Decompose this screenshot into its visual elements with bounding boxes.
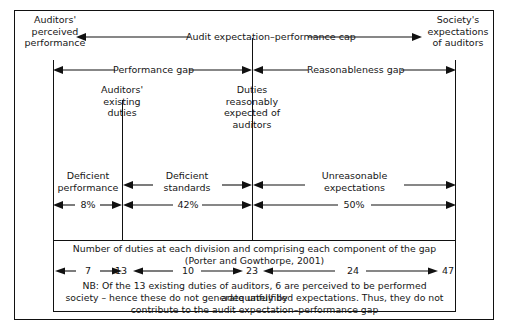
left-endpoint-line1: Auditors' [20, 14, 90, 26]
deficient-standards-line1: Deficient [153, 170, 221, 182]
deficient-standards-label: Deficient standards [153, 170, 221, 193]
audit-expectation-gap-figure: Auditors' perceived performance Society'… [0, 0, 509, 330]
deficient-performance-line1: Deficient [54, 170, 122, 182]
deficient-performance-percent: 8% [73, 199, 103, 210]
right-endpoint-line3: of auditors [420, 37, 496, 49]
right-endpoint-line1: Society's [420, 14, 496, 26]
auditors-existing-duties-line3: duties [87, 107, 157, 119]
unreasonable-expectations-percent: 50% [338, 199, 370, 210]
audit-expectation-cap-label: Audit expectation–performance cap [186, 31, 314, 43]
duties-reasonably-expected-line3: expected of [212, 107, 292, 119]
count-divider-left: 13 [110, 265, 132, 276]
auditors-existing-duties-line1: Auditors' [87, 84, 157, 96]
count-divider-right: 47 [438, 265, 458, 276]
footer-note-line3: contribute to the audit expectation–perf… [56, 304, 453, 316]
count-deficient-performance: 7 [73, 265, 103, 276]
count-deficient-standards: 10 [172, 265, 204, 276]
duties-reasonably-expected-label: Duties reasonably expected of auditors [212, 84, 292, 130]
deficient-performance-label: Deficient performance [54, 170, 122, 193]
duties-reasonably-expected-line4: auditors [212, 119, 292, 131]
reasonableness-gap-label: Reasonableness gap [307, 64, 402, 76]
deficient-standards-percent: 42% [172, 199, 204, 210]
vline-left-boundary [53, 60, 54, 240]
deficient-performance-line2: performance [54, 182, 122, 194]
duties-reasonably-expected-line2: reasonably [212, 96, 292, 108]
footer-note-line2: society – hence these do not generate un… [56, 292, 453, 304]
count-divider-mid: 23 [241, 265, 263, 276]
vline-right-boundary [455, 60, 456, 240]
count-unreasonable-expectations: 24 [337, 265, 369, 276]
right-endpoint-label: Society's expectations of auditors [420, 14, 496, 49]
deficient-standards-line2: standards [153, 182, 221, 194]
footer-caption-line1: Number of duties at each division and co… [56, 243, 453, 255]
duties-reasonably-expected-line1: Duties [212, 84, 292, 96]
right-endpoint-line2: expectations [420, 26, 496, 38]
unreasonable-expectations-line1: Unreasonable [305, 170, 404, 182]
unreasonable-expectations-line2: expectations [305, 182, 404, 194]
performance-gap-label: Performance gap [113, 64, 193, 76]
vline-auditors-existing-duties [122, 100, 123, 240]
unreasonable-expectations-label: Unreasonable expectations [305, 170, 404, 193]
auditors-existing-duties-label: Auditors' existing duties [87, 84, 157, 119]
auditors-existing-duties-line2: existing [87, 96, 157, 108]
